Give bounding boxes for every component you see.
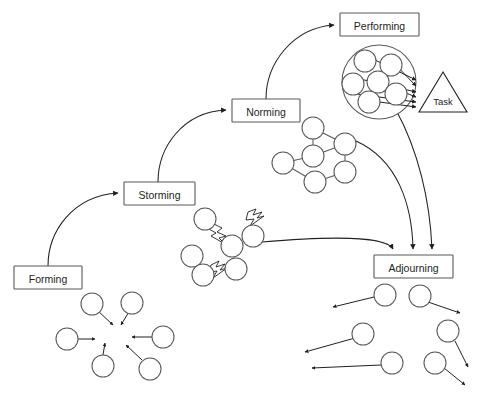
adjourning-arrow-6 <box>444 368 465 385</box>
team-member-circle-1 <box>354 50 376 72</box>
storming-member-circle-1 <box>194 208 216 230</box>
network-node-2 <box>334 133 356 155</box>
adjourning-arrow-5 <box>455 341 468 367</box>
team-member-circle-5 <box>385 83 407 105</box>
network-node-1 <box>302 117 324 139</box>
diagram-canvas: Forming Storming Norming Performing Adjo… <box>0 0 485 398</box>
stage-box-storming[interactable]: Storming <box>124 182 195 205</box>
stage-box-norming[interactable]: Norming <box>232 99 300 122</box>
forming-member-circle-6 <box>56 328 78 350</box>
forming-arrow-5 <box>103 343 105 355</box>
stage-box-norming-label: Norming <box>246 106 286 118</box>
stage-box-forming-label: Forming <box>29 273 68 285</box>
performing-cluster-illustration: Task <box>342 45 467 119</box>
stage-transition-arrows <box>48 25 334 266</box>
storming-member-circle-5 <box>192 264 214 286</box>
adjourning-arrow-3 <box>305 338 355 352</box>
team-member-circle-3 <box>342 73 364 95</box>
team-development-diagram: Forming Storming Norming Performing Adjo… <box>0 0 485 398</box>
adjourning-cluster-illustration <box>305 284 468 385</box>
arrow-forming-to-storming <box>48 193 118 266</box>
network-node-4 <box>272 152 294 174</box>
storming-member-circle-2 <box>242 225 264 247</box>
stage-box-performing-label: Performing <box>354 20 406 32</box>
adjourning-member-circle-3 <box>352 323 374 345</box>
norming-network-illustration <box>272 117 356 193</box>
adjourning-member-circle-4 <box>381 352 403 374</box>
storming-member-circle-3 <box>181 245 203 267</box>
stage-box-performing[interactable]: Performing <box>340 13 419 36</box>
forming-member-circle-3 <box>152 326 174 348</box>
forming-member-circle-4 <box>139 358 161 380</box>
forming-cluster-illustration <box>56 292 174 380</box>
forming-member-circle-2 <box>121 292 143 314</box>
adjourning-member-circle-1 <box>374 284 396 306</box>
storming-member-circle-4 <box>221 235 243 257</box>
caption-strip <box>0 386 485 398</box>
stage-box-storming-label: Storming <box>138 189 180 201</box>
storming-cluster-illustration <box>181 208 264 286</box>
network-node-6 <box>304 171 326 193</box>
team-member-circle-6 <box>358 91 380 113</box>
arrow-norming-network-to-adjourning <box>356 141 413 249</box>
adjourning-arrow-1 <box>333 297 374 307</box>
storming-member-circle-6 <box>225 258 247 280</box>
forming-member-circle-5 <box>92 355 114 377</box>
forming-convergence-arrows <box>78 310 152 360</box>
adjourning-member-circle-6 <box>424 352 446 374</box>
adjourning-arrow-2 <box>428 302 460 313</box>
arrow-norming-to-performing <box>266 25 334 99</box>
task-label: Task <box>433 96 453 107</box>
adjourning-member-circle-5 <box>437 320 459 342</box>
network-node-3 <box>302 145 324 167</box>
adjourning-arrow-4 <box>312 365 381 368</box>
stage-box-adjourning[interactable]: Adjourning <box>374 255 453 278</box>
forming-arrow-4 <box>126 345 142 360</box>
lightning-bolt-icon-2 <box>246 209 264 226</box>
arrow-performing-cluster-to-adjourning <box>396 110 432 249</box>
stage-box-forming[interactable]: Forming <box>14 266 82 289</box>
arrow-storming-to-norming <box>158 110 226 182</box>
stage-box-adjourning-label: Adjourning <box>388 262 438 274</box>
arrow-storming-cluster-to-adjourning <box>262 238 393 249</box>
forming-member-circle-1 <box>81 293 103 315</box>
network-node-5 <box>334 161 356 183</box>
adjourning-member-circle-2 <box>409 285 431 307</box>
